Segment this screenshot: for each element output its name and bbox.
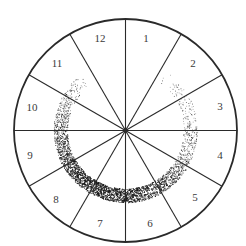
sector-label-1: 1 (143, 32, 149, 44)
sector-label-7: 7 (97, 217, 103, 229)
sector-divider (29, 131, 126, 187)
sector-label-5: 5 (192, 191, 198, 203)
sector-label-12: 12 (95, 32, 106, 44)
sector-divider (126, 75, 223, 131)
sector-label-2: 2 (190, 57, 196, 69)
sector-label-11: 11 (52, 57, 63, 69)
sector-label-8: 8 (53, 193, 59, 205)
sector-divider (70, 34, 126, 131)
sector-label-9: 9 (27, 149, 33, 161)
sector-divider (29, 75, 126, 131)
sector-label-6: 6 (147, 217, 153, 229)
center-point (123, 128, 127, 132)
sector-divider (126, 34, 182, 131)
sector-divider (126, 131, 223, 187)
clock-sector-diagram: 12 1 2 3 4 5 6 7 8 9 10 11 (0, 0, 246, 246)
sector-label-3: 3 (217, 100, 223, 112)
sector-label-10: 10 (27, 101, 39, 113)
sector-label-4: 4 (217, 149, 223, 161)
